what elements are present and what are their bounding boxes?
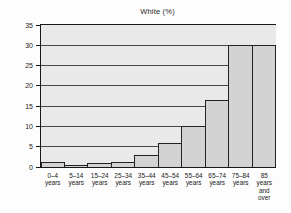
y-tick-label-35: 35 — [8, 22, 33, 29]
y-tick-label-0: 0 — [8, 164, 33, 171]
x-tick-label-1: 0–4 years — [45, 172, 61, 187]
bar-4 — [111, 162, 136, 167]
y-tick-15 — [36, 106, 41, 107]
y-tick-20 — [36, 85, 41, 86]
bar-8 — [205, 100, 230, 167]
bar-9 — [228, 45, 253, 167]
y-tick-25 — [36, 65, 41, 66]
x-tick-label-3: 15–24 years — [91, 172, 109, 187]
y-tick-0 — [36, 167, 41, 168]
x-tick-label-2: 5–14 years — [68, 172, 84, 187]
x-tick-label-5: 35–44 years — [138, 172, 156, 187]
x-tick-label-9: 75–84 years — [232, 172, 250, 187]
y-tick-5 — [36, 146, 41, 147]
bar-3 — [87, 163, 112, 167]
chart-title: White (%) — [40, 7, 275, 16]
bar-10 — [252, 45, 277, 167]
bar-1 — [41, 162, 65, 167]
y-tick-10 — [36, 126, 41, 127]
y-tick-label-15: 15 — [8, 103, 33, 110]
x-tick-label-8: 65–74 years — [208, 172, 226, 187]
x-tick-label-7: 55–64 years — [185, 172, 203, 187]
bar-6 — [158, 143, 183, 167]
x-tick-label-4: 25–34 years — [114, 172, 132, 187]
x-tick-label-6: 45–54 years — [161, 172, 179, 187]
y-tick-35 — [36, 25, 41, 26]
y-tick-30 — [36, 45, 41, 46]
y-tick-label-25: 25 — [8, 62, 33, 69]
x-tick-label-10: 85 years and over — [256, 172, 272, 201]
age-distribution-figure: White (%) 051015202530350–4 years5–14 ye… — [0, 0, 291, 213]
y-tick-label-20: 20 — [8, 82, 33, 89]
y-tick-label-5: 5 — [8, 143, 33, 150]
bar-5 — [134, 155, 159, 167]
y-tick-label-10: 10 — [8, 123, 33, 130]
bar-2 — [64, 165, 89, 167]
y-tick-label-30: 30 — [8, 42, 33, 49]
bar-7 — [181, 126, 206, 167]
plot-area: 051015202530350–4 years5–14 years15–24 y… — [40, 24, 276, 168]
